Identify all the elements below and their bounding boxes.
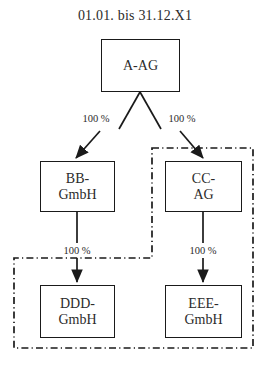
- node-eee-gmbh[interactable]: EEE- GmbH: [165, 285, 242, 338]
- node-bb-gmbh[interactable]: BB- GmbH: [40, 161, 115, 212]
- node-a-ag[interactable]: A-AG: [101, 39, 180, 92]
- node-a-ag-label: A-AG: [123, 58, 158, 74]
- edge-label-a-bb: 100 %: [66, 113, 126, 124]
- node-cc-ag[interactable]: CC- AG: [165, 161, 242, 212]
- diagram-canvas: 01.01. bis 31.12.X1 A-AG BB- GmbH CC- AG…: [0, 0, 270, 367]
- edge-label-bb-ddd: 100 %: [47, 245, 107, 256]
- edge-a-cc-arrow: [180, 131, 203, 158]
- node-eee-gmbh-label: EEE- GmbH: [184, 296, 222, 327]
- node-bb-gmbh-label: BB- GmbH: [58, 171, 96, 202]
- node-ddd-gmbh-label: DDD- GmbH: [58, 296, 96, 327]
- node-cc-ag-label: CC- AG: [192, 171, 215, 202]
- edge-label-cc-eee: 100 %: [173, 245, 233, 256]
- edge-label-a-cc: 100 %: [152, 113, 212, 124]
- edge-a-bb-arrow: [76, 131, 100, 158]
- node-ddd-gmbh[interactable]: DDD- GmbH: [40, 285, 115, 338]
